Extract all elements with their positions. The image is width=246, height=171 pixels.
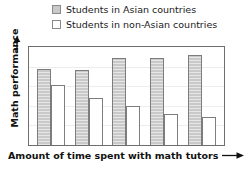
bar-asian [37, 69, 51, 145]
legend-item-non-asian: Students in non-Asian countries [52, 17, 242, 32]
bar-non-asian [202, 117, 216, 145]
bar-asian [75, 70, 89, 145]
chart-legend: Students in Asian countries Students in … [52, 2, 242, 32]
bar-asian [112, 58, 126, 145]
legend-swatch-empty-white-square [52, 20, 61, 29]
bar-non-asian [164, 114, 178, 145]
legend-item-asian: Students in Asian countries [52, 2, 242, 17]
x-axis-label: Amount of time spent with math tutors [8, 150, 218, 161]
x-axis: Amount of time spent with math tutors [8, 150, 240, 161]
bar-non-asian [126, 106, 140, 145]
bar-groups [29, 47, 224, 145]
legend-label-non-asian: Students in non-Asian countries [66, 19, 217, 30]
y-axis-label: Math performance [9, 32, 20, 128]
math-performance-bar-chart: Students in Asian countries Students in … [0, 0, 246, 171]
legend-swatch-filled-gray-square [52, 5, 61, 14]
bar-non-asian [51, 85, 65, 145]
legend-label-asian: Students in Asian countries [66, 4, 196, 15]
right-arrow-icon [222, 151, 244, 160]
bar-group [112, 47, 140, 145]
bar-non-asian [89, 98, 103, 145]
plot-area [28, 46, 225, 146]
bar-group [37, 47, 65, 145]
y-axis: Math performance [0, 36, 28, 148]
bar-group [150, 47, 178, 145]
bar-group [188, 47, 216, 145]
bar-asian [150, 58, 164, 145]
bar-asian [188, 55, 202, 145]
bar-group [75, 47, 103, 145]
